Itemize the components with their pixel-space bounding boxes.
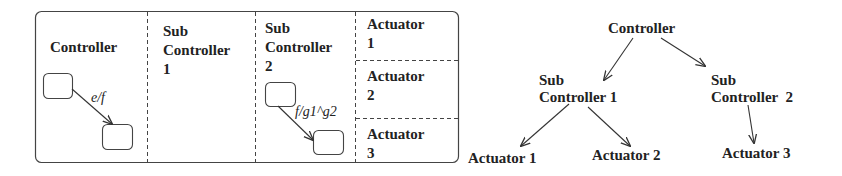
region-label-actuator-3: Actuator 3 [367,125,424,163]
state-box [103,125,133,150]
region-label-sub-controller-2: Sub Controller 2 [265,19,332,76]
region-label-actuator-2: Actuator 2 [367,67,424,105]
tree-node-actuator-1: Actuator 1 [468,149,536,168]
tree-node-controller: Controller [608,19,675,38]
transition-label-e-f: e/f [91,90,105,106]
state-box [314,131,344,155]
region-label-actuator-1: Actuator 1 [367,15,424,53]
transition-label-f-g1-g2: f/g1^g2 [295,104,337,120]
tree-node-actuator-3: Actuator 3 [722,144,790,163]
tree-node-sub-controller-1: Sub Controller 1 [539,72,617,106]
state-box [266,83,296,107]
tree-node-sub-controller-2: Sub Controller 2 [711,72,793,106]
region-label-sub-controller-1: Sub Controller 1 [163,22,230,79]
state-box [44,74,73,99]
region-label-controller: Controller [50,38,117,57]
tree-node-actuator-2: Actuator 2 [592,146,660,165]
